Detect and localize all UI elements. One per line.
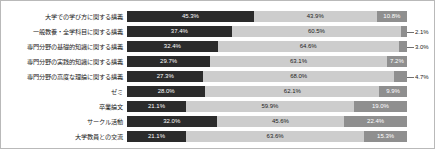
bar-segment-1: 29.7% — [127, 56, 210, 67]
category-label: サークル活動 — [1, 117, 127, 126]
leader-line — [407, 77, 414, 78]
bar-value-label-2: 68.0% — [290, 73, 307, 80]
bar-value-label-1: 27.3% — [157, 73, 174, 80]
bar-value-label-2: 43.9% — [307, 13, 324, 20]
bar-value-label-3: 9.9% — [386, 88, 400, 95]
bar-value-label-1: 45.3% — [182, 13, 199, 20]
chart-row: ゼミ28.0%62.1%9.9% — [1, 84, 435, 99]
bar-segment-1: 27.3% — [127, 71, 203, 82]
leader-line — [407, 32, 414, 33]
category-label: 専門分野の基礎的知識に関する講義 — [1, 42, 127, 51]
category-label: 卒業論文 — [1, 102, 127, 111]
category-label: 専門分野の高度な理論に関する講義 — [1, 72, 127, 81]
bar-value-label-2: 63.1% — [290, 58, 307, 65]
category-label: 一般教養・全学科目に関する講義 — [1, 27, 127, 36]
bar-value-label-2: 63.6% — [267, 133, 284, 140]
bar-segment-2: 45.6% — [217, 116, 345, 127]
bar-track: 45.3%43.9%10.8% — [127, 11, 407, 22]
category-label: 専門分野の実践的知識に関する講義 — [1, 57, 127, 66]
bar-value-label-3: 10.8% — [383, 13, 400, 20]
bar-segment-2: 43.9% — [254, 11, 377, 22]
bar-value-label-3: 19.0% — [372, 103, 389, 110]
bar-value-label-1: 29.7% — [160, 58, 177, 65]
bar-value-label-1: 21.1% — [148, 133, 165, 140]
chart-row: 専門分野の高度な理論に関する講義27.3%68.0%4.7% — [1, 69, 435, 84]
leader-line — [407, 47, 414, 48]
chart-row: 大学教員との交流21.1%63.6%15.3% — [1, 129, 435, 144]
bar-value-label-3: 7.2% — [390, 58, 404, 65]
bar-segment-3: 15.3% — [364, 131, 407, 142]
bar-segment-1: 45.3% — [127, 11, 254, 22]
bar-track: 37.4%60.5%2.1% — [127, 26, 407, 37]
bar-segment-2: 63.6% — [186, 131, 364, 142]
bar-value-label-1: 37.4% — [171, 28, 188, 35]
chart-row: 専門分野の基礎的知識に関する講義32.4%64.6%3.0% — [1, 39, 435, 54]
bar-value-label-2: 62.1% — [284, 88, 301, 95]
bar-value-label-3: 3.0% — [415, 43, 429, 50]
chart-row: 大学での学び方に関する講義45.3%43.9%10.8% — [1, 9, 435, 24]
bar-segment-1: 21.1% — [127, 131, 186, 142]
chart-row: 専門分野の実践的知識に関する講義29.7%63.1%7.2% — [1, 54, 435, 69]
bar-segment-2: 63.1% — [210, 56, 387, 67]
bar-value-label-2: 64.6% — [300, 43, 317, 50]
bar-value-label-1: 32.4% — [164, 43, 181, 50]
chart-rows: 大学での学び方に関する講義45.3%43.9%10.8%一般教養・全学科目に関す… — [1, 9, 435, 144]
bar-track: 27.3%68.0%4.7% — [127, 71, 407, 82]
bar-value-label-3: 2.1% — [415, 28, 429, 35]
bar-segment-2: 62.1% — [205, 86, 379, 97]
bar-segment-2: 60.5% — [232, 26, 401, 37]
bar-segment-3: 22.4% — [344, 116, 407, 127]
bar-segment-1: 21.1% — [127, 101, 186, 112]
bar-track: 29.7%63.1%7.2% — [127, 56, 407, 67]
bar-value-label-1: 21.1% — [148, 103, 165, 110]
bar-track: 21.1%59.9%19.0% — [127, 101, 407, 112]
bar-value-label-2: 45.6% — [272, 118, 289, 125]
bar-value-label-3: 22.4% — [367, 118, 384, 125]
category-label: ゼミ — [1, 87, 127, 96]
bar-segment-3: 10.8% — [377, 11, 407, 22]
bar-segment-3: 7.2% — [387, 56, 407, 67]
bar-track: 32.4%64.6%3.0% — [127, 41, 407, 52]
category-label: 大学での学び方に関する講義 — [1, 12, 127, 21]
bar-segment-2: 68.0% — [203, 71, 393, 82]
bar-value-label-3: 4.7% — [415, 73, 429, 80]
chart-row: 一般教養・全学科目に関する講義37.4%60.5%2.1% — [1, 24, 435, 39]
bar-value-label-3: 15.3% — [377, 133, 394, 140]
bar-segment-3: 2.1% — [401, 26, 407, 37]
bar-segment-3: 9.9% — [379, 86, 407, 97]
bar-track: 21.1%63.6%15.3% — [127, 131, 407, 142]
bar-segment-2: 59.9% — [186, 101, 354, 112]
bar-track: 28.0%62.1%9.9% — [127, 86, 407, 97]
category-label: 大学教員との交流 — [1, 132, 127, 141]
bar-segment-3: 4.7% — [394, 71, 407, 82]
bar-track: 32.0%45.6%22.4% — [127, 116, 407, 127]
bar-segment-3: 3.0% — [399, 41, 407, 52]
bar-segment-1: 28.0% — [127, 86, 205, 97]
bar-segment-1: 32.0% — [127, 116, 217, 127]
bar-value-label-2: 59.9% — [261, 103, 278, 110]
stacked-bar-chart: 大学での学び方に関する講義45.3%43.9%10.8%一般教養・全学科目に関す… — [0, 0, 435, 149]
chart-row: 卒業論文21.1%59.9%19.0% — [1, 99, 435, 114]
bar-segment-1: 37.4% — [127, 26, 232, 37]
bar-segment-1: 32.4% — [127, 41, 218, 52]
bar-segment-2: 64.6% — [218, 41, 399, 52]
bar-value-label-1: 28.0% — [158, 88, 175, 95]
bar-segment-3: 19.0% — [354, 101, 407, 112]
bar-value-label-2: 60.5% — [308, 28, 325, 35]
bar-value-label-1: 32.0% — [163, 118, 180, 125]
chart-row: サークル活動32.0%45.6%22.4% — [1, 114, 435, 129]
